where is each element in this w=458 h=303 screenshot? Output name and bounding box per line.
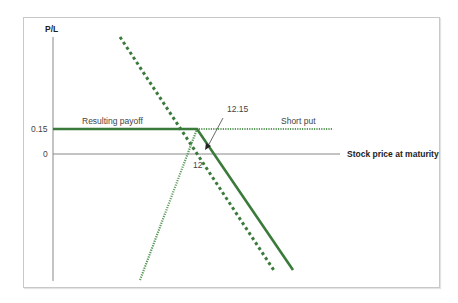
short-put-label: Short put xyxy=(281,116,316,126)
x-axis-label: Stock price at maturity xyxy=(347,149,439,159)
tick-label-0: 0 xyxy=(43,149,48,159)
resulting-payoff-line xyxy=(53,129,293,270)
breakeven-label: 12.15 xyxy=(227,104,248,114)
breakeven-arrow xyxy=(208,118,223,146)
short-put-line xyxy=(140,129,333,280)
strike-label: 12 xyxy=(193,160,202,170)
resulting-payoff-label: Resulting payoff xyxy=(82,116,143,126)
tick-label-015: 0.15 xyxy=(31,124,48,134)
y-axis-label: P/L xyxy=(45,24,58,34)
